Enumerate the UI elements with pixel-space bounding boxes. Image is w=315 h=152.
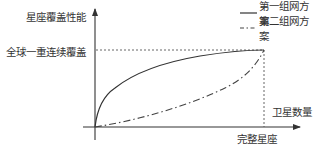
- legend-item-scheme-2: 第二组网方案: [240, 21, 315, 35]
- coverage-level-label: 全球一重连续覆盖: [6, 44, 86, 59]
- scheme-2-curve: [95, 50, 264, 127]
- scheme-1-curve: [95, 50, 264, 127]
- solid-line-swatch-icon: [240, 10, 257, 16]
- dash-dot-line-swatch-icon: [240, 25, 257, 31]
- y-axis-label: 星座覆盖性能: [26, 9, 86, 24]
- x-axis-label: 卫星数量: [272, 104, 312, 119]
- legend-label: 第二组网方案: [259, 13, 315, 43]
- coverage-diagram: 星座覆盖性能 全球一重连续覆盖 卫星数量 完整星座 第一组网方案 第二组网方案: [0, 0, 315, 152]
- full-constellation-label: 完整星座: [237, 131, 277, 146]
